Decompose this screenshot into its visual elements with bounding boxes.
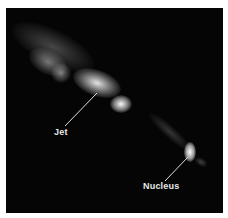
annotation-pointers [6,8,223,213]
jet-pointer-line [65,93,97,126]
astronomy-image: Jet Nucleus [6,8,223,213]
nucleus-pointer-line [165,157,188,181]
jet-label: Jet [54,127,68,137]
nucleus-label: Nucleus [143,181,179,191]
